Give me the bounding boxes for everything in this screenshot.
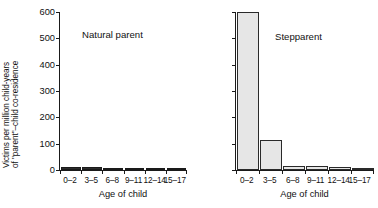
y-tick-300-right xyxy=(232,91,236,92)
x-tick-0 xyxy=(60,170,61,174)
bar-natural-15-17 xyxy=(167,168,187,170)
x-tick-label-15-17-right: 15–17 xyxy=(337,176,378,185)
x-axis-title-natural-parent: Age of child xyxy=(62,189,184,199)
y-tick-200-right xyxy=(232,117,236,118)
x-axis-title-stepparent: Age of child xyxy=(238,189,371,199)
y-tick-300 xyxy=(56,91,60,92)
y-tick-200 xyxy=(56,117,60,118)
bar-step-3-5 xyxy=(260,140,282,170)
y-tick-100 xyxy=(56,144,60,145)
y-tick-label-500: 500 xyxy=(29,33,55,43)
panel-stepparent: Stepparent xyxy=(190,0,378,208)
y-tick-label-300: 300 xyxy=(29,86,55,96)
y-tick-label-0: 0 xyxy=(29,165,55,175)
x-tick-1-right xyxy=(259,170,260,174)
y-tick-500 xyxy=(56,38,60,39)
bar-natural-0-2 xyxy=(61,167,81,171)
bar-step-9-11 xyxy=(306,166,328,170)
x-tick-1 xyxy=(81,170,82,174)
x-tick-6-right xyxy=(373,170,374,174)
x-tick-6 xyxy=(186,170,187,174)
y-tick-100-right xyxy=(232,144,236,145)
x-tick-3-right xyxy=(305,170,306,174)
bar-step-12-14 xyxy=(329,167,351,170)
y-tick-label-600: 600 xyxy=(29,7,55,17)
plot-area-natural-parent xyxy=(59,12,187,170)
panel-natural-parent: Natural parent xyxy=(0,0,190,208)
x-tick-0-right xyxy=(236,170,237,174)
y-tick-400 xyxy=(56,65,60,66)
x-tick-3 xyxy=(124,170,125,174)
y-tick-600 xyxy=(56,12,60,13)
y-tick-label-400: 400 xyxy=(29,60,55,70)
x-tick-2-right xyxy=(282,170,283,174)
x-tick-5 xyxy=(166,170,167,174)
y-tick-label-100: 100 xyxy=(29,139,55,149)
y-tick-label-200: 200 xyxy=(29,112,55,122)
bar-natural-9-11 xyxy=(125,168,145,170)
bar-step-6-8 xyxy=(283,166,305,171)
y-tick-600-right xyxy=(232,12,236,13)
x-tick-2 xyxy=(102,170,103,174)
figure-child-homicide-rates: Victims per million child-years of "pare… xyxy=(0,0,378,208)
y-tick-500-right xyxy=(232,38,236,39)
bar-natural-6-8 xyxy=(103,168,123,170)
x-tick-5-right xyxy=(351,170,352,174)
x-tick-4-right xyxy=(328,170,329,174)
bar-step-15-17 xyxy=(352,168,374,170)
plot-area-stepparent xyxy=(235,12,374,170)
y-tick-400-right xyxy=(232,65,236,66)
bar-natural-3-5 xyxy=(82,167,102,170)
bar-natural-12-14 xyxy=(146,168,166,170)
x-tick-4 xyxy=(145,170,146,174)
bar-step-0-2 xyxy=(237,12,259,170)
